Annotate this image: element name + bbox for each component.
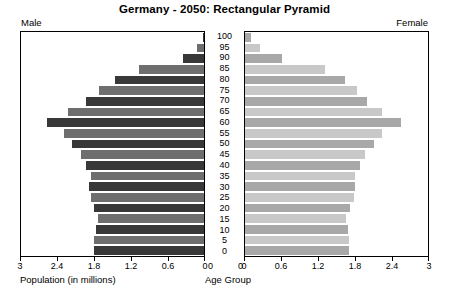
bar-row [21,64,204,75]
axis-tick-label-3: 3 [17,261,22,271]
bar-male-age-85 [139,65,204,74]
x-axis-title: Population (in millions) [20,274,116,285]
axis-tick-label-2.4: 2.4 [386,261,399,271]
bar-female-age-0 [245,246,349,255]
bar-male-age-50 [72,140,204,149]
bar-row [21,203,204,214]
bar-male-age-95 [197,44,204,53]
age-tick-0: 0 [205,246,244,257]
bar-row [245,160,428,171]
bar-row [245,213,428,224]
bar-female-age-50 [245,140,374,149]
bar-male-age-35 [91,172,204,181]
bar-row [245,43,428,54]
bar-row [21,96,204,107]
bar-row [245,64,428,75]
age-tick-rows: 0510152025303540455055606570758085909510… [205,31,244,257]
bar-male-age-80 [115,76,204,85]
bar-male-age-75 [99,86,204,95]
bar-row [245,192,428,203]
age-axis-title: Age Group [205,274,244,285]
age-tick-90: 90 [205,52,244,63]
age-tick-70: 70 [205,96,244,107]
bar-row [245,224,428,235]
bar-row [21,235,204,246]
bar-row [245,75,428,86]
bar-female-age-95 [245,44,260,53]
bar-row [245,139,428,150]
age-tick-25: 25 [205,192,244,203]
bar-row [21,224,204,235]
male-plot-area [20,31,205,257]
bar-row [245,96,428,107]
age-tick-45: 45 [205,149,244,160]
bar-row [21,117,204,128]
axis-tick-label-0: 0 [202,261,207,271]
center-zero-label-right: 0 [238,261,243,271]
female-bar-rows [245,32,428,256]
bar-female-age-80 [245,76,345,85]
bar-row [21,213,204,224]
bar-female-age-40 [245,161,360,170]
bar-row [21,75,204,86]
age-tick-85: 85 [205,63,244,74]
bar-male-age-100 [203,33,204,42]
age-tick-75: 75 [205,85,244,96]
bar-female-age-30 [245,182,355,191]
bar-male-age-55 [64,129,204,138]
age-tick-80: 80 [205,74,244,85]
bar-row [245,203,428,214]
age-tick-40: 40 [205,160,244,171]
male-value-axis: 32.41.81.20.60 [20,257,205,273]
chart-title: Germany - 2050: Rectangular Pyramid [0,3,449,15]
age-tick-5: 5 [205,235,244,246]
bar-male-age-45 [81,150,204,159]
bar-row [245,245,428,256]
age-tick-95: 95 [205,42,244,53]
bar-row [21,32,204,43]
bar-row [21,171,204,182]
center-zero-label-left: 0 [208,261,213,271]
bar-female-age-75 [245,86,357,95]
bar-female-age-20 [245,204,350,213]
bar-row [245,32,428,43]
bar-row [245,85,428,96]
male-series-label: Male [21,17,42,28]
bar-male-age-40 [86,161,204,170]
bar-row [21,53,204,64]
age-group-axis: 0510152025303540455055606570758085909510… [205,31,244,257]
bar-male-age-25 [91,193,204,202]
female-plot-area [244,31,429,257]
bar-row [245,53,428,64]
bar-male-age-30 [89,182,204,191]
bar-row [245,235,428,246]
age-tick-50: 50 [205,139,244,150]
axis-tick-label-1.8: 1.8 [349,261,362,271]
axis-tick-label-3: 3 [426,261,431,271]
bar-row [245,107,428,118]
age-tick-15: 15 [205,214,244,225]
bar-row [21,149,204,160]
bar-row [21,43,204,54]
bar-female-age-10 [245,225,348,234]
age-tick-55: 55 [205,128,244,139]
age-tick-60: 60 [205,117,244,128]
bar-female-age-100 [245,33,251,42]
bar-female-age-15 [245,214,346,223]
bar-male-age-15 [98,214,204,223]
male-bar-rows [21,32,204,256]
axis-tick-label-0.6: 0.6 [275,261,288,271]
bar-row [21,160,204,171]
bar-female-age-65 [245,108,382,117]
bar-male-age-65 [68,108,204,117]
bar-male-age-0 [94,246,204,255]
bar-row [245,149,428,160]
bar-female-age-25 [245,193,354,202]
age-tick-35: 35 [205,171,244,182]
bar-row [21,245,204,256]
bar-male-age-90 [183,54,204,63]
bar-female-age-5 [245,236,349,245]
bar-row [21,85,204,96]
bar-row [245,128,428,139]
bar-female-age-90 [245,54,282,63]
